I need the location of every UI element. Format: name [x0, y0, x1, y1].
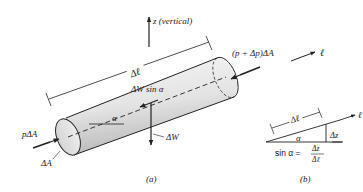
end-force-label: (p + Δp)ΔA: [232, 48, 274, 58]
l-axis-label: ℓ: [320, 47, 324, 58]
alpha-label: α: [112, 113, 117, 123]
formula-denominator: Δℓ: [311, 155, 320, 164]
p-force-arrow: [33, 139, 59, 148]
caption-b: (b): [300, 174, 311, 184]
formula-numerator: Δz: [311, 144, 319, 153]
inset-triangle: [266, 108, 355, 142]
inset-l-axis-label: ℓ: [358, 110, 362, 120]
area-label: ΔA: [40, 158, 52, 168]
diagram-canvas: z (vertical) Δℓ (p + Δp)ΔA ℓ ΔW sin α: [0, 0, 363, 192]
p-force-label: pΔA: [21, 129, 38, 139]
l-direction-arrow: [291, 52, 315, 61]
formula-lhs: sin α =: [275, 148, 301, 158]
caption-a: (a): [146, 174, 157, 184]
inset-delta-z-label: Δz: [329, 130, 339, 140]
inset-alpha-label: α: [296, 133, 301, 143]
streamtube-diagram: z (vertical) Δℓ (p + Δp)ΔA ℓ ΔW sin α: [0, 0, 363, 192]
weight-component-label: ΔW sin α: [130, 84, 164, 94]
weight-label: ΔW: [165, 132, 180, 142]
area-leader: [53, 151, 60, 159]
z-axis-label: z (vertical): [152, 16, 192, 26]
